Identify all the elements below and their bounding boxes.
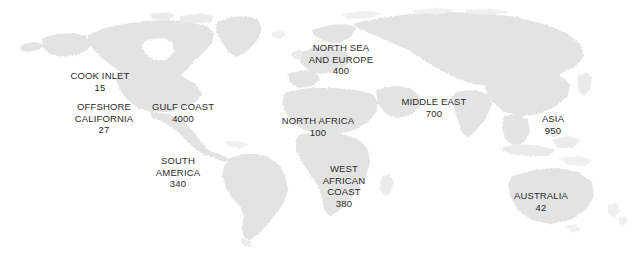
region-name-line-2: AND EUROPE bbox=[309, 54, 373, 66]
region-name: AUSTRALIA bbox=[514, 190, 568, 202]
region-label-cook-inlet: COOK INLET 15 bbox=[70, 70, 129, 93]
region-label-offshore-california: OFFSHORE CALIFORNIA 27 bbox=[75, 101, 134, 136]
region-name: GULF COAST bbox=[152, 101, 214, 113]
region-value: 27 bbox=[75, 124, 134, 136]
region-name-line-3: COAST bbox=[323, 186, 366, 198]
region-value: 42 bbox=[514, 202, 568, 214]
region-label-australia: AUSTRALIA 42 bbox=[514, 190, 568, 213]
region-value: 950 bbox=[542, 125, 564, 137]
region-name: NORTH AFRICA bbox=[282, 115, 354, 127]
region-value: 700 bbox=[402, 108, 467, 120]
region-value: 4000 bbox=[152, 113, 214, 125]
world-map-figure: COOK INLET 15 OFFSHORE CALIFORNIA 27 GUL… bbox=[0, 0, 633, 262]
region-label-gulf-coast: GULF COAST 4000 bbox=[152, 101, 214, 124]
region-value: 15 bbox=[70, 82, 129, 94]
region-label-asia: ASIA 950 bbox=[542, 113, 564, 136]
region-label-west-african-coast: WEST AFRICAN COAST 380 bbox=[323, 163, 366, 209]
region-name-line-1: NORTH SEA bbox=[309, 42, 373, 54]
region-name-line-2: AMERICA bbox=[156, 167, 200, 179]
region-name-line-1: SOUTH bbox=[156, 155, 200, 167]
region-name: COOK INLET bbox=[70, 70, 129, 82]
region-name-line-1: WEST bbox=[323, 163, 366, 175]
region-name: ASIA bbox=[542, 113, 564, 125]
region-value: 400 bbox=[309, 65, 373, 77]
region-label-middle-east: MIDDLE EAST 700 bbox=[402, 96, 467, 119]
region-name-line-2: AFRICAN bbox=[323, 175, 366, 187]
region-name-line-1: OFFSHORE bbox=[75, 101, 134, 113]
region-name-line-2: CALIFORNIA bbox=[75, 113, 134, 125]
region-value: 340 bbox=[156, 178, 200, 190]
region-label-north-africa: NORTH AFRICA 100 bbox=[282, 115, 354, 138]
region-name: MIDDLE EAST bbox=[402, 96, 467, 108]
region-label-north-sea-and-europe: NORTH SEA AND EUROPE 400 bbox=[309, 42, 373, 77]
region-value: 380 bbox=[323, 198, 366, 210]
region-label-south-america: SOUTH AMERICA 340 bbox=[156, 155, 200, 190]
region-value: 100 bbox=[282, 127, 354, 139]
